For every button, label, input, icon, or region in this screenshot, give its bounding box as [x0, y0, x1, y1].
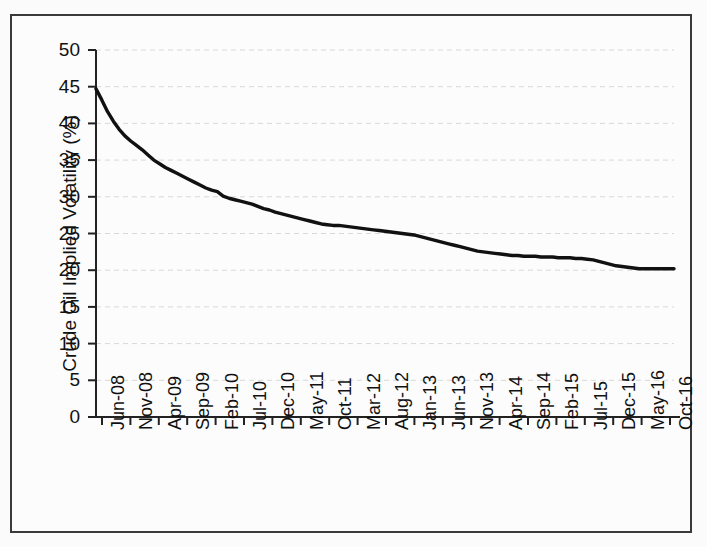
y-tick-label: 50 [38, 40, 80, 59]
y-tick-label: 45 [38, 77, 80, 96]
y-tick-label: 5 [38, 370, 80, 389]
y-tick-label: 20 [38, 260, 80, 279]
x-tick-label: Jul-10 [251, 381, 269, 430]
gridlines-group [96, 50, 674, 380]
x-tick-label: Nov-08 [137, 372, 155, 430]
x-tick-label: May-16 [649, 370, 667, 430]
x-tick-label: Apr-14 [507, 376, 525, 430]
x-tick-label: Oct-11 [336, 377, 354, 430]
x-tick-label: Oct-16 [677, 376, 695, 430]
x-tick-label: Sep-14 [535, 372, 553, 430]
x-tick-label: Feb-15 [563, 373, 581, 430]
x-tick-label: Dec-10 [279, 372, 297, 430]
x-tick-label: Feb-10 [223, 373, 241, 430]
x-tick-label: Apr-09 [166, 376, 184, 430]
x-tick-label: Nov-13 [478, 372, 496, 430]
y-tick-label: 15 [38, 297, 80, 316]
chart-figure: Crude Oil Implied Volatility (%) 0510152… [0, 0, 707, 547]
y-tick-label: 30 [38, 187, 80, 206]
x-tick-label: May-11 [308, 371, 326, 430]
chart-plot-svg [0, 0, 707, 547]
y-tick-label: 10 [38, 334, 80, 353]
x-tick-label: Aug-12 [393, 372, 411, 430]
volatility-curve [96, 89, 674, 269]
y-tick-label: 40 [38, 113, 80, 132]
x-tick-label: Jan-13 [421, 375, 439, 430]
x-tick-label: Mar-12 [365, 373, 383, 430]
y-tick-label: 25 [38, 224, 80, 243]
x-tick-marks [102, 417, 670, 425]
y-tick-label: 35 [38, 150, 80, 169]
x-tick-label: Jul-15 [592, 381, 610, 430]
y-tick-marks [88, 50, 96, 417]
x-tick-label: Dec-15 [620, 372, 638, 430]
y-tick-label: 0 [38, 407, 80, 426]
x-tick-label: Jun-13 [450, 375, 468, 430]
x-tick-label: Sep-09 [194, 372, 212, 430]
x-tick-label: Jun-08 [109, 375, 127, 430]
